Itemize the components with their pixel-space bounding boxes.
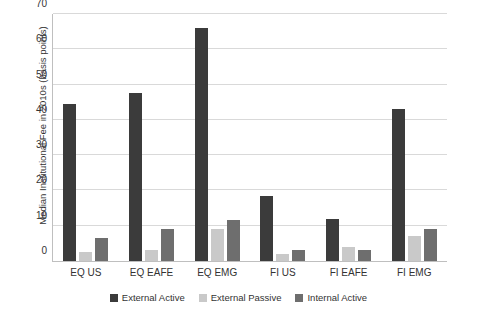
y-tick-label: 0 [41, 245, 47, 256]
bar [292, 250, 305, 261]
bars-layer: EQ USEQ EAFEEQ EMGFI USFI EAFEFI EMG [53, 14, 447, 261]
x-tick-label: FI US [250, 267, 316, 278]
x-tick-label: FI EMG [381, 267, 447, 278]
bar-group: FI EAFE [316, 14, 382, 261]
legend-label: Internal Active [307, 292, 367, 303]
bar [408, 236, 421, 261]
bar [195, 28, 208, 261]
bar-group: FI US [250, 14, 316, 261]
chart-legend: External ActiveExternal PassiveInternal … [0, 292, 477, 303]
bar [392, 109, 405, 261]
legend-label: External Active [122, 292, 185, 303]
x-tick-label: FI EAFE [316, 267, 382, 278]
bar [358, 250, 371, 261]
legend-swatch-icon [110, 294, 118, 302]
bar-group: EQ US [53, 14, 119, 261]
plot-area: 010203040506070 EQ USEQ EAFEEQ EMGFI USF… [52, 14, 447, 262]
legend-swatch-icon [199, 294, 207, 302]
legend-label: External Passive [211, 292, 282, 303]
y-tick-label: 60 [36, 33, 47, 44]
bar-chart: Median Institutional Fee in 2010s (basis… [0, 0, 477, 318]
bar [326, 219, 339, 261]
bar [63, 104, 76, 261]
y-tick-label: 10 [36, 209, 47, 220]
bar-group: EQ EMG [184, 14, 250, 261]
bar [424, 229, 437, 261]
x-tick-label: EQ US [53, 267, 119, 278]
bar [227, 220, 240, 261]
bar [211, 229, 224, 261]
bar [260, 196, 273, 261]
bar [129, 93, 142, 261]
legend-item: External Active [110, 292, 185, 303]
x-tick-label: EQ EAFE [119, 267, 185, 278]
legend-item: Internal Active [295, 292, 367, 303]
y-tick-label: 20 [36, 174, 47, 185]
y-tick-label: 30 [36, 139, 47, 150]
bar [79, 252, 92, 261]
x-tick-label: EQ EMG [184, 267, 250, 278]
y-tick-label: 40 [36, 103, 47, 114]
bar [276, 254, 289, 261]
bar-group: FI EMG [381, 14, 447, 261]
bar-group: EQ EAFE [119, 14, 185, 261]
bar [342, 247, 355, 261]
bar [161, 229, 174, 261]
y-tick-label: 50 [36, 68, 47, 79]
bar [95, 238, 108, 261]
bar [145, 250, 158, 261]
legend-swatch-icon [295, 294, 303, 302]
legend-item: External Passive [199, 292, 282, 303]
y-tick-label: 70 [36, 0, 47, 9]
